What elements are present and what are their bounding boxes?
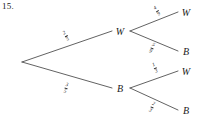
node-level2-b-b: B bbox=[183, 105, 189, 116]
branch-line-b-w bbox=[130, 71, 178, 88]
node-level2-b-w: W bbox=[182, 66, 190, 77]
tree-branch-lines bbox=[0, 0, 203, 125]
branch-line-w-w bbox=[130, 12, 178, 31]
node-level2-w-b: B bbox=[183, 46, 189, 57]
probability-tree-figure: 15. W B W B W B 2 5 3 5 4 9 5 9 1 bbox=[0, 0, 203, 125]
node-level1-b: B bbox=[117, 83, 123, 94]
node-level2-w-w: W bbox=[182, 7, 190, 18]
node-level1-w: W bbox=[116, 26, 124, 37]
